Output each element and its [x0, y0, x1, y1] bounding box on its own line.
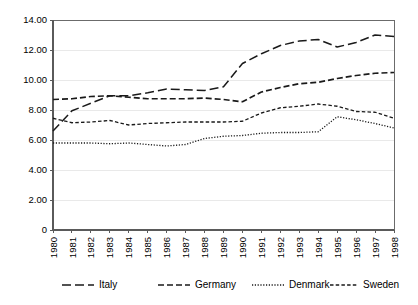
x-tick-label: 1981: [67, 237, 78, 258]
x-tick-label: 1984: [123, 237, 134, 258]
x-tick-label: 1987: [180, 237, 191, 258]
y-tick-label: 12.00: [23, 44, 47, 55]
x-tick-label: 1990: [237, 237, 248, 258]
legend-label-sweden: Sweden: [363, 279, 399, 290]
x-tick-label: 1983: [104, 237, 115, 258]
x-tick-label: 1995: [332, 237, 343, 258]
x-tick-label: 1991: [256, 237, 267, 258]
legend-label-germany: Germany: [195, 279, 236, 290]
y-tick-label: 0: [42, 224, 47, 235]
x-tick-label: 1996: [351, 237, 362, 258]
x-tick-label: 1985: [142, 237, 153, 258]
y-tick-label: 4.00: [29, 164, 48, 175]
y-tick-label: 6.00: [29, 134, 48, 145]
y-tick-label: 2.00: [29, 194, 48, 205]
x-tick-label: 1993: [294, 237, 305, 258]
chart-canvas: 02.004.006.008.0010.0012.0014.00 1980198…: [0, 0, 418, 305]
x-tick-label: 1994: [313, 237, 324, 258]
legend-label-denmark: Denmark: [289, 279, 331, 290]
x-tick-label: 1998: [389, 237, 400, 258]
y-tick-label: 14.00: [23, 14, 47, 25]
chart-background: [0, 0, 418, 305]
y-tick-label: 10.00: [23, 74, 47, 85]
x-tick-label: 1986: [161, 237, 172, 258]
x-tick-label: 1992: [275, 237, 286, 258]
legend-label-italy: Italy: [99, 279, 117, 290]
x-tick-label: 1997: [370, 237, 381, 258]
x-tick-label: 1980: [48, 237, 59, 258]
x-tick-label: 1982: [85, 237, 96, 258]
x-tick-label: 1988: [199, 237, 210, 258]
line-chart: 02.004.006.008.0010.0012.0014.00 1980198…: [0, 0, 418, 305]
x-tick-label: 1989: [218, 237, 229, 258]
y-tick-label: 8.00: [29, 104, 48, 115]
